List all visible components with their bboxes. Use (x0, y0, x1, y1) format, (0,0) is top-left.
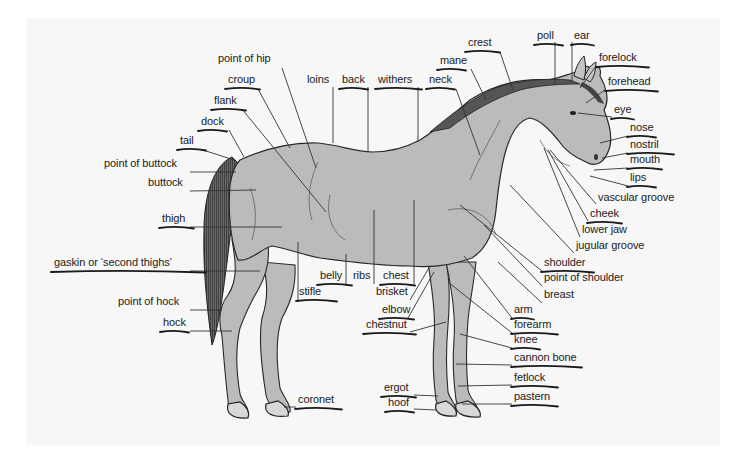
underline-hoof (385, 411, 414, 413)
underline-forehead (605, 90, 658, 92)
label-neck: neck (429, 73, 452, 85)
underline-belly (317, 284, 352, 286)
label-dock: dock (201, 115, 224, 127)
label-nose: nose (630, 121, 653, 133)
label-chest: chest (383, 269, 409, 281)
label-knee: knee (514, 333, 537, 345)
label-point-of-buttock: point of buttock (104, 157, 177, 169)
label-stifle: stifle (299, 285, 321, 297)
underline-dock (198, 130, 227, 132)
label-point-of-hock: point of hock (118, 295, 179, 307)
label-shoulder: shoulder (544, 256, 585, 268)
label-crest: crest (468, 36, 491, 48)
label-mouth: mouth (630, 153, 660, 165)
underline-coronet (295, 408, 342, 410)
underline-eye (611, 118, 634, 120)
label-chestnut: chestnut (366, 318, 407, 330)
label-forelock: forelock (599, 51, 637, 63)
underline-mouth (627, 168, 662, 170)
underline-ear (571, 44, 594, 46)
underline-tail (177, 149, 206, 151)
label-forearm: forearm (514, 318, 551, 330)
label-mane: mane (440, 54, 467, 66)
label-loins: loins (307, 73, 329, 85)
label-lower-jaw: lower jaw (582, 223, 627, 235)
label-croup: croup (228, 73, 255, 85)
label-nostril: nostril (630, 138, 659, 150)
underline-chestnut (363, 333, 416, 335)
label-lips: lips (630, 171, 646, 183)
underline-croup (225, 88, 260, 90)
label-elbow: elbow (382, 303, 410, 315)
underline-poll (534, 44, 563, 46)
underline-knee (511, 348, 540, 350)
label-hoof: hoof (388, 396, 409, 408)
underline-fetlock (511, 386, 558, 388)
label-flank: flank (214, 94, 237, 106)
underline-cannon-bone (511, 366, 582, 368)
label-hock: hock (163, 316, 186, 328)
label-brisket: brisket (376, 285, 408, 297)
underline-lips (627, 186, 656, 188)
label-fetlock: fetlock (514, 371, 545, 383)
label-pastern: pastern (514, 390, 550, 402)
label-forehead: forehead (608, 75, 651, 87)
label-breast: breast (544, 288, 574, 300)
label-gaskin: gaskin or ‘second thighs’ (54, 256, 172, 268)
label-coronet: coronet (298, 393, 334, 405)
label-jugular-groove: jugular groove (576, 239, 644, 251)
underline-withers (375, 88, 422, 90)
underline-mane (437, 69, 466, 71)
label-thigh: thigh (162, 212, 185, 224)
underline-gaskin (51, 271, 206, 273)
underline-thigh (159, 227, 194, 229)
label-buttock: buttock (148, 176, 183, 188)
label-point-of-shoulder: point of shoulder (544, 271, 624, 283)
label-point-of-hip: point of hip (218, 52, 271, 64)
label-poll: poll (537, 29, 554, 41)
underline-hock (160, 331, 189, 333)
label-tail: tail (180, 134, 194, 146)
label-withers: withers (378, 73, 412, 85)
label-eye: eye (614, 103, 631, 115)
label-cheek: cheek (590, 207, 619, 219)
label-cannon-bone: cannon bone (514, 351, 577, 363)
underline-back (339, 88, 368, 90)
label-ear: ear (574, 29, 590, 41)
label-vascular-groove: vascular groove (598, 191, 674, 203)
underline-stifle (296, 300, 337, 302)
label-arm: arm (514, 303, 533, 315)
underline-flank (211, 109, 246, 111)
underline-crest (465, 51, 500, 53)
underline-neck (426, 88, 455, 90)
underline-pastern (511, 405, 558, 407)
underline-forelock (596, 66, 649, 68)
label-belly: belly (320, 269, 342, 281)
label-back: back (342, 73, 365, 85)
label-ergot: ergot (384, 381, 409, 393)
handwritten-underlines (0, 0, 745, 466)
label-ribs: ribs (353, 269, 370, 281)
